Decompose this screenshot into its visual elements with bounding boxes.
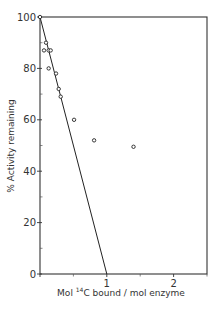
data-point: [92, 139, 95, 142]
x-axis-title: Mol 14C bound / mol enzyme: [57, 286, 185, 298]
x-axis-title-superscript: 14: [76, 286, 84, 293]
data-point: [38, 15, 41, 18]
data-point: [47, 67, 50, 70]
y-tick-label: 60: [23, 114, 36, 125]
y-tick-label: 100: [17, 12, 36, 23]
y-tick-label: 80: [23, 63, 36, 74]
x-axis-title-prefix: Mol: [57, 288, 76, 298]
x-axis-title-suffix: C bound / mol enzyme: [83, 288, 185, 298]
plot-frame: [40, 17, 207, 274]
chart-figure: 020406080100 12 % Activity remaining Mol…: [0, 0, 217, 309]
plot-border: [40, 17, 207, 274]
data-point: [72, 118, 75, 121]
data-point: [57, 87, 60, 90]
fit-line: [40, 17, 107, 274]
data-point: [54, 72, 57, 75]
y-tick-label: 20: [23, 217, 36, 228]
data-points: [38, 15, 135, 148]
data-point: [132, 145, 135, 148]
data-point: [59, 95, 62, 98]
data-point: [42, 49, 45, 52]
y-axis-ticks: 020406080100: [17, 12, 43, 280]
regression-line: [40, 17, 107, 274]
y-tick-label: 0: [30, 269, 36, 280]
x-axis-ticks: 12: [40, 274, 207, 289]
y-tick-label: 40: [23, 166, 36, 177]
data-point: [44, 41, 47, 44]
data-point: [49, 49, 52, 52]
y-axis-title: % Activity remaining: [6, 99, 16, 192]
